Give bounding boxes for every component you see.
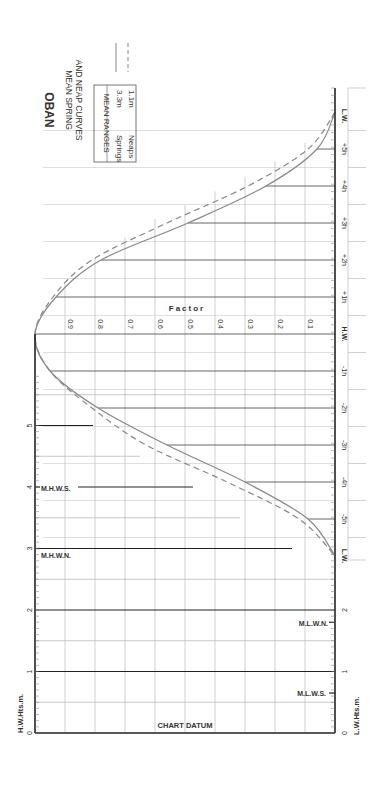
factor-tick: 0.6 — [157, 319, 164, 329]
time-tick: -2h — [341, 403, 348, 413]
legend-box: MEAN RANGES Springs 3.3m Neaps 1.1m — [94, 85, 136, 162]
factor-label: Factor — [169, 304, 205, 313]
time-tick: H.W. — [341, 326, 348, 341]
mlws-label: M.L.W.S. — [297, 690, 326, 697]
legend-springs-label: Springs — [115, 135, 124, 162]
factor-tick: 0.9 — [67, 319, 74, 329]
tidal-curve-diagram: OBAN MEAN SPRING AND NEAP CURVES MEAN RA… — [0, 0, 384, 787]
lw-height-tick: 2 — [341, 608, 348, 612]
time-tick: L.W. — [341, 109, 348, 123]
chart-datum-label: CHART DATUM — [158, 721, 213, 730]
legend-neaps-value: 1.1m — [127, 90, 136, 108]
legend-neaps-label: Neaps — [127, 135, 136, 158]
chart-title: OBAN — [42, 92, 56, 127]
legend-springs-value: 3.3m — [115, 90, 124, 108]
time-tick: L.W. — [341, 549, 348, 563]
time-tick: +5h — [341, 143, 348, 155]
mlwn-label: M.L.W.N. — [299, 620, 328, 627]
hw-heights-axis-label: H.W.Hts.m. — [16, 694, 25, 733]
time-tick: +4h — [341, 180, 348, 192]
lw-height-tick: 1 — [341, 669, 348, 673]
factor-tick: 0.3 — [247, 319, 254, 329]
hw-height-tick: 1 — [26, 669, 33, 673]
time-tick: +3h — [341, 217, 348, 229]
hw-height-tick: 4 — [26, 485, 33, 489]
legend-header: MEAN RANGES — [102, 93, 111, 152]
factor-tick: 0.5 — [187, 319, 194, 329]
hw-height-tick: 0 — [26, 731, 33, 735]
hw-height-tick: 3 — [26, 546, 33, 550]
factor-tick: 0.4 — [217, 319, 224, 329]
lw-heights-axis-label: L.W.Hts.m. — [352, 697, 361, 735]
time-tick: +1h — [341, 291, 348, 303]
time-tick: -5h — [341, 514, 348, 524]
subtitle-line2: AND NEAP CURVES — [74, 60, 84, 141]
hw-height-tick: 2 — [26, 608, 33, 612]
time-tick: +2h — [341, 254, 348, 266]
factor-tick: 0.7 — [127, 319, 134, 329]
grid-lines — [35, 88, 366, 733]
time-tick: -4h — [341, 477, 348, 487]
time-tick: -3h — [341, 440, 348, 450]
hw-height-tick: 5 — [26, 423, 33, 427]
time-tick: -1h — [341, 366, 348, 376]
factor-tick: 0.8 — [97, 319, 104, 329]
mhwn-label: M.H.W.N. — [41, 552, 71, 559]
subtitle-line1: MEAN SPRING — [64, 70, 74, 130]
lw-height-tick: 0 — [341, 731, 348, 735]
mhws-label: M.H.W.S. — [41, 485, 71, 492]
factor-tick: 0.2 — [277, 319, 284, 329]
factor-tick: 0.1 — [307, 319, 314, 329]
